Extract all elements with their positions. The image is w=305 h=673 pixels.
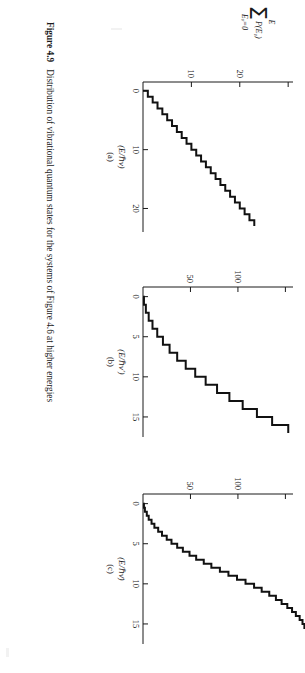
svg-text:0: 0 (131, 295, 141, 299)
panel-c-x-axis-label: (E/ℏν̄) (117, 494, 127, 644)
svg-text:10: 10 (186, 70, 196, 79)
svg-text:20: 20 (131, 204, 141, 213)
summation-icon: Σ (248, 5, 268, 20)
panel-a-x-axis-label: (E/ℏν) (117, 82, 127, 232)
svg-text:10: 10 (131, 373, 141, 382)
figure-number: Figure 4.9 (45, 22, 55, 62)
sigma-argument: P(Ev) (253, 21, 262, 39)
panel-a-letter: (a) (106, 82, 116, 232)
svg-text:10: 10 (131, 580, 141, 589)
svg-text:5: 5 (131, 335, 141, 339)
plot-a: 010201020 (143, 82, 293, 232)
sigma-upper-limit: E (268, 20, 276, 25)
panel-b-x-axis-label: (E/ℏν′) (117, 287, 127, 437)
plot-c: 05101550100 (143, 494, 293, 644)
panel-a: 010201020 (E/ℏν) (a) (94, 40, 299, 240)
svg-text:15: 15 (131, 413, 141, 422)
svg-text:100: 100 (233, 270, 243, 283)
panel-b-letter: (b) (106, 287, 116, 437)
panel-c-letter: (c) (106, 494, 116, 644)
scanned-page: E Σ P(Ev) Ev=0 010201020 (E/ℏν) (a) 0510… (0, 0, 305, 673)
y-axis-label: E Σ P(Ev) Ev=0 (239, 2, 275, 42)
svg-text:100: 100 (233, 477, 243, 490)
panel-b: 05101550100 (E/ℏν′) (b) (94, 245, 299, 445)
scan-artifact (111, 28, 122, 30)
svg-text:0: 0 (131, 502, 141, 506)
plot-b: 05101550100 (143, 287, 293, 437)
svg-text:15: 15 (131, 620, 141, 629)
svg-text:20: 20 (235, 70, 245, 79)
svg-text:0: 0 (131, 89, 141, 93)
svg-text:50: 50 (185, 482, 195, 491)
figure-caption: Figure 4.9Distribution of vibrational qu… (43, 22, 55, 663)
figure-caption-text: Distribution of vibrational quantum stat… (45, 69, 55, 402)
panel-c: 05101550100 (E/ℏν̄) (c) (94, 452, 299, 652)
svg-text:50: 50 (185, 275, 195, 284)
sigma-lower-limit: Ev=0 (239, 14, 248, 30)
scan-artifact (6, 648, 9, 657)
svg-text:5: 5 (131, 542, 141, 546)
svg-text:10: 10 (131, 145, 141, 154)
